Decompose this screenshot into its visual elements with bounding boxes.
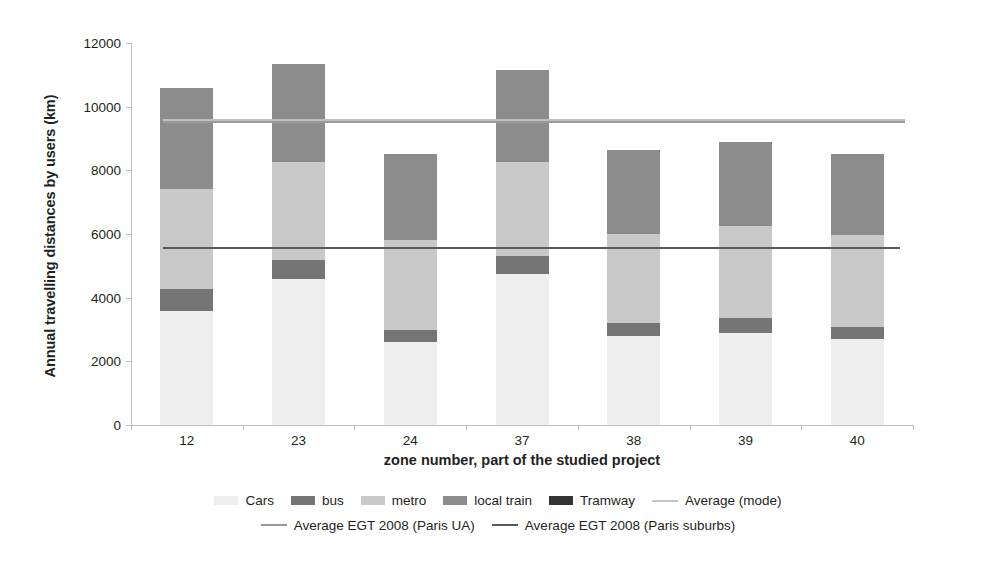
chart-legend: Carsbusmetrolocal trainTramwayAverage (m… <box>0 494 996 532</box>
bar-segment[interactable] <box>272 162 325 260</box>
legend-item[interactable]: bus <box>291 494 344 508</box>
x-tick-label: 40 <box>817 433 897 448</box>
bar-stack[interactable] <box>831 43 884 425</box>
x-tick-mark <box>578 425 579 430</box>
bar-segment[interactable] <box>831 154 884 235</box>
bar-segment[interactable] <box>496 70 549 162</box>
x-tick-mark <box>466 425 467 430</box>
bar-segment[interactable] <box>272 260 325 279</box>
legend-line-icon <box>261 524 287 526</box>
y-tick-label: 2000 <box>51 354 121 369</box>
x-tick-mark <box>243 425 244 430</box>
bar-segment[interactable] <box>160 88 213 189</box>
legend-item[interactable]: Cars <box>214 494 274 508</box>
legend-item[interactable]: Average (mode) <box>652 494 782 508</box>
bar-segment[interactable] <box>160 189 213 289</box>
bar-segment[interactable] <box>607 336 660 425</box>
legend-swatch-icon <box>214 496 238 505</box>
legend-swatch-icon <box>443 496 467 505</box>
y-tick-label: 4000 <box>51 290 121 305</box>
bar-stack[interactable] <box>719 43 772 425</box>
bar-segment[interactable] <box>384 154 437 240</box>
bar-segment[interactable] <box>496 256 549 274</box>
x-tick-mark <box>354 425 355 430</box>
bar-segment[interactable] <box>160 311 213 425</box>
bar-segment[interactable] <box>831 327 884 339</box>
y-tick-label: 6000 <box>51 227 121 242</box>
legend-row-primary: Carsbusmetrolocal trainTramwayAverage (m… <box>0 494 996 508</box>
x-tick-mark <box>131 425 132 430</box>
x-tick-label: 23 <box>259 433 339 448</box>
bar-segment[interactable] <box>384 330 437 342</box>
legend-swatch-icon <box>361 496 385 505</box>
legend-label: Average (mode) <box>685 494 782 508</box>
chart-container: Annual travelling distances by users (km… <box>0 0 996 576</box>
bar-segment[interactable] <box>272 279 325 425</box>
x-tick-mark <box>690 425 691 430</box>
legend-line-icon <box>492 524 518 526</box>
bar-segment[interactable] <box>607 150 660 234</box>
bar-segment[interactable] <box>831 339 884 425</box>
bar-segment[interactable] <box>496 162 549 255</box>
bar-stack[interactable] <box>160 43 213 425</box>
bar-segment[interactable] <box>719 142 772 226</box>
x-tick-label: 38 <box>594 433 674 448</box>
x-tick-label: 39 <box>705 433 785 448</box>
bar-segment[interactable] <box>607 323 660 336</box>
x-tick-mark <box>801 425 802 430</box>
bar-stack[interactable] <box>607 43 660 425</box>
x-axis-line <box>131 425 913 426</box>
legend-row-secondary: Average EGT 2008 (Paris UA)Average EGT 2… <box>0 519 996 533</box>
y-tick-label: 0 <box>51 418 121 433</box>
legend-item[interactable]: Average EGT 2008 (Paris UA) <box>261 519 475 533</box>
bar-stack[interactable] <box>496 43 549 425</box>
bar-segment[interactable] <box>496 274 549 425</box>
y-tick-label: 10000 <box>51 99 121 114</box>
legend-label: Tramway <box>580 494 635 508</box>
legend-label: Average EGT 2008 (Paris suburbs) <box>525 519 735 533</box>
bar-segment[interactable] <box>384 240 437 329</box>
bar-segment[interactable] <box>384 342 437 425</box>
bar-segment[interactable] <box>160 289 213 311</box>
bar-segment[interactable] <box>719 226 772 318</box>
bar-stack[interactable] <box>384 43 437 425</box>
reference-line <box>163 121 905 123</box>
legend-swatch-icon <box>291 496 315 505</box>
bar-segment[interactable] <box>272 64 325 162</box>
y-tick-label: 12000 <box>51 36 121 51</box>
legend-label: local train <box>474 494 532 508</box>
legend-item[interactable]: Average EGT 2008 (Paris suburbs) <box>492 519 735 533</box>
bar-stack[interactable] <box>272 43 325 425</box>
legend-item[interactable]: local train <box>443 494 532 508</box>
bar-segment[interactable] <box>719 318 772 332</box>
legend-label: metro <box>392 494 427 508</box>
reference-line <box>163 247 900 249</box>
legend-item[interactable]: metro <box>361 494 427 508</box>
bar-segment[interactable] <box>831 235 884 327</box>
plot-area <box>131 43 913 425</box>
legend-label: bus <box>322 494 344 508</box>
legend-label: Average EGT 2008 (Paris UA) <box>294 519 475 533</box>
x-tick-label: 12 <box>147 433 227 448</box>
x-tick-label: 24 <box>370 433 450 448</box>
x-tick-label: 37 <box>482 433 562 448</box>
x-axis-title: zone number, part of the studied project <box>131 452 913 468</box>
legend-label: Cars <box>245 494 274 508</box>
bar-segment[interactable] <box>719 333 772 425</box>
y-tick-label: 8000 <box>51 163 121 178</box>
legend-item[interactable]: Tramway <box>549 494 635 508</box>
legend-swatch-icon <box>549 496 573 505</box>
x-tick-mark <box>913 425 914 430</box>
legend-line-icon <box>652 500 678 502</box>
